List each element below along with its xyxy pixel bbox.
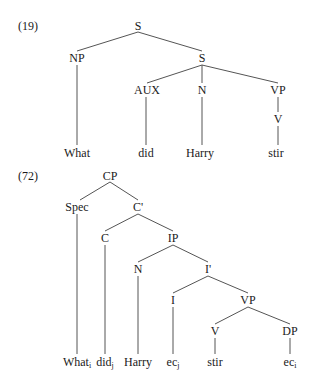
tree-branch <box>138 214 173 231</box>
node-label: did <box>96 355 111 369</box>
tree-node-c: C <box>101 231 109 245</box>
node-label: N <box>198 83 207 97</box>
tree-node-l5: stir <box>207 355 222 369</box>
node-label: DP <box>282 324 297 338</box>
node-label: C <box>101 231 109 245</box>
tree-node-ip: IP <box>168 231 179 245</box>
node-label: did <box>138 146 153 160</box>
node-label: Spec <box>65 200 88 214</box>
tree-branch <box>208 276 248 293</box>
example-number-19: (19) <box>18 19 38 33</box>
node-label: V <box>274 112 283 126</box>
index-subscript: j <box>177 361 179 370</box>
tree-node-l4: ecj <box>167 355 180 369</box>
node-label: NP <box>69 51 84 65</box>
index-subscript: j <box>112 361 114 370</box>
tree-node-w4: stir <box>268 146 283 160</box>
tree-node-vp: VP <box>270 83 285 97</box>
node-label: VP <box>240 293 255 307</box>
node-label: I' <box>205 262 211 276</box>
tree-node-cp: CP <box>103 169 118 183</box>
node-label: I <box>171 293 175 307</box>
tree-node-w1: What <box>64 146 90 160</box>
tree-node-v: V <box>274 112 283 126</box>
tree-branch <box>173 276 208 293</box>
tree-branch <box>110 182 138 200</box>
tree-branch <box>202 65 278 83</box>
index-subscript: i <box>89 361 91 370</box>
node-label: AUX <box>134 83 160 97</box>
tree-node-v2: V <box>211 324 220 338</box>
tree-branch <box>77 32 138 51</box>
tree-node-s2: S <box>199 51 206 65</box>
node-label: S <box>135 19 142 33</box>
node-label: Harry <box>186 146 214 160</box>
tree-branch <box>80 182 110 200</box>
tree-branches <box>0 0 312 386</box>
node-label: IP <box>168 231 179 245</box>
tree-node-l1: Whati <box>63 355 91 369</box>
tree-branch <box>173 245 208 262</box>
tree-node-vp2: VP <box>240 293 255 307</box>
tree-node-cbar: C' <box>133 200 143 214</box>
tree-node-n2: N <box>134 262 143 276</box>
tree-branch <box>138 32 202 51</box>
tree-branch <box>248 307 290 324</box>
node-label: ec <box>167 355 178 369</box>
tree-node-ibar: I' <box>205 262 211 276</box>
node-label: C' <box>133 200 143 214</box>
tree-node-l6: eci <box>284 355 297 369</box>
tree-node-w3: Harry <box>186 146 214 160</box>
node-label: What <box>63 355 89 369</box>
node-label: S <box>199 51 206 65</box>
tree-branch <box>147 65 202 83</box>
tree-node-n: N <box>198 83 207 97</box>
tree-node-dp: DP <box>282 324 297 338</box>
node-label: ec <box>284 355 295 369</box>
node-label: V <box>211 324 220 338</box>
node-label: N <box>134 262 143 276</box>
tree-node-l3: Harry <box>124 355 152 369</box>
tree-branch <box>105 214 138 231</box>
tree-node-spec: Spec <box>65 200 88 214</box>
tree-node-l2: didj <box>96 355 114 369</box>
node-label: stir <box>207 355 222 369</box>
example-number-72: (72) <box>18 169 38 183</box>
node-label: Harry <box>124 355 152 369</box>
node-label: What <box>64 146 90 160</box>
tree-node-aux: AUX <box>134 83 160 97</box>
tree-node-s1: S <box>135 19 142 33</box>
index-subscript: i <box>294 361 296 370</box>
tree-node-i: I <box>171 293 175 307</box>
tree-branch <box>215 307 248 324</box>
tree-node-np: NP <box>69 51 84 65</box>
tree-branch <box>138 245 173 262</box>
node-label: VP <box>270 83 285 97</box>
node-label: stir <box>268 146 283 160</box>
node-label: CP <box>103 169 118 183</box>
tree-node-w2: did <box>138 146 153 160</box>
